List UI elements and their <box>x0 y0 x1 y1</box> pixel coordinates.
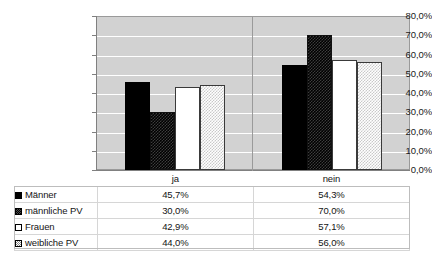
bar <box>200 85 225 170</box>
chart-page: 80,0%70,0%60,0%50,0%40,0%30,0%20,0%10,0%… <box>0 0 432 273</box>
bar <box>150 112 175 170</box>
table-cell-value: 54,3% <box>253 187 409 203</box>
data-table: janeinMänner45,7%54,3%männliche PV30,0%7… <box>14 171 410 251</box>
table-cell-value: 57,1% <box>253 219 409 235</box>
table-cell-value: 44,0% <box>97 235 253 251</box>
table-cell-value: 30,0% <box>97 203 253 219</box>
table-row: Frauen42,9%57,1% <box>15 219 410 235</box>
table-header-cell: nein <box>253 171 409 187</box>
legend-entry: männliche PV <box>15 203 98 219</box>
bar <box>357 62 382 170</box>
chart-area: 80,0%70,0%60,0%50,0%40,0%30,0%20,0%10,0%… <box>0 0 432 186</box>
legend-swatch-icon <box>15 240 22 247</box>
legend-label: Männer <box>25 189 57 200</box>
legend-entry: weibliche PV <box>15 235 98 251</box>
legend-swatch-icon <box>15 208 22 215</box>
bar <box>175 87 200 170</box>
bar <box>125 82 150 170</box>
legend-label: Frauen <box>25 221 55 232</box>
category-divider <box>252 16 253 171</box>
table-row: weibliche PV44,0%56,0% <box>15 235 410 251</box>
bar-group-ja <box>96 16 253 170</box>
legend-entry: Männer <box>15 187 98 203</box>
table-cell-value: 56,0% <box>253 235 409 251</box>
legend-swatch-icon <box>15 224 22 231</box>
legend-entry: Frauen <box>15 219 98 235</box>
table-row: Männer45,7%54,3% <box>15 187 410 203</box>
bar-series-container <box>96 16 410 170</box>
bar <box>282 65 307 170</box>
legend-swatch-icon <box>15 192 22 199</box>
table-cell-value: 42,9% <box>97 219 253 235</box>
table-header-row: janein <box>15 171 410 187</box>
table-cell-value: 45,7% <box>97 187 253 203</box>
legend-label: männliche PV <box>25 205 82 216</box>
table-header-blank <box>15 171 98 187</box>
legend-label: weibliche PV <box>25 237 78 248</box>
bar-group-nein <box>253 16 410 170</box>
bar <box>332 60 357 170</box>
table-cell-value: 70,0% <box>253 203 409 219</box>
bar <box>307 35 332 170</box>
table-header-cell: ja <box>97 171 253 187</box>
table-row: männliche PV30,0%70,0% <box>15 203 410 219</box>
